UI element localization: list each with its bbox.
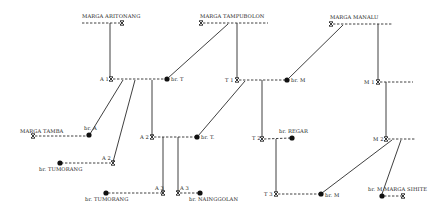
clan-tampubolon: MARGA TAMPUBOLON [168, 13, 268, 78]
male-marker-icon [199, 21, 203, 25]
node-label-a3-left: A 3 [154, 185, 164, 191]
node-label-br-m-2: br. M [325, 192, 340, 198]
female-marker-icon [103, 190, 108, 195]
node-label-br-regar: br. REGAR [279, 128, 309, 134]
node-a2: A 2 br. T. [139, 81, 245, 192]
female-marker-icon [197, 190, 202, 195]
node-label-br-tumorang-2: br. TUMORANG [85, 196, 128, 202]
male-marker-icon [329, 22, 333, 26]
node-label-br-nainggolan: br. NAINGGOLAN [189, 196, 238, 202]
a1-descendants [90, 80, 152, 162]
clan-label-manalu: MARGA MANALU [330, 14, 379, 20]
node-label-br-tumorang-1: br. TUMORANG [39, 166, 82, 172]
male-marker-icon [376, 80, 380, 84]
node-a1: A 1 br. T [99, 76, 184, 82]
clan-label-tampubolon: MARGA TAMPUBOLON [200, 13, 265, 19]
node-label-m2: M 2 [373, 136, 384, 142]
node-t2: T 2 br. REGAR [252, 128, 309, 192]
clan-aritonang: MARGA ARITONANG [82, 13, 140, 77]
clan-label-sihite: MARGA SIHITE [384, 186, 427, 192]
node-t3: T 3 br. M [264, 191, 340, 198]
node-label-br-t: br. T [171, 76, 184, 82]
descent-line [288, 25, 343, 79]
male-marker-icon [109, 77, 113, 81]
node-a3-right: A 3 br. NAINGGOLAN [176, 185, 238, 202]
node-label-a1: A 1 [99, 76, 109, 82]
clan-label-tamba: MARGA TAMBA [20, 128, 64, 134]
node-sihite: br. M MARGA SIHITE [368, 186, 427, 199]
node-label-br-t-2: br. T. [201, 134, 215, 140]
node-a3-left: A 3 br. TUMORANG [85, 185, 165, 202]
clan-label-aritonang: MARGA ARITONANG [82, 13, 140, 19]
node-label-br-m: br. M [291, 77, 306, 83]
female-marker-icon [86, 132, 91, 137]
node-a2-left: A 2 br. TUMORANG [39, 155, 115, 172]
descent-line [168, 24, 228, 78]
female-marker-icon [379, 193, 384, 198]
male-marker-icon [235, 78, 239, 82]
male-marker-icon [120, 21, 124, 25]
node-label-a3-right: A 3 [179, 185, 189, 191]
kinship-diagram: MARGA ARITONANG A 1 br. T MARGA TAMPUBOL… [0, 0, 445, 213]
node-label-a2: A 2 [139, 134, 149, 140]
node-t1: T 1 br. M [225, 77, 306, 83]
node-label-br-a: br. A [84, 125, 97, 131]
male-marker-icon [274, 192, 278, 196]
descent-line [113, 80, 135, 162]
female-marker-icon [289, 135, 294, 140]
node-label-m1: M 1 [364, 79, 375, 85]
male-marker-icon [384, 137, 388, 141]
male-marker-icon [31, 134, 35, 138]
marriage-line [264, 138, 291, 139]
node-label-t2: T 2 [252, 135, 261, 141]
descent-line [198, 81, 245, 136]
node-label-a2-left: A 2 [101, 155, 111, 161]
node-label-t3: T 3 [264, 191, 273, 197]
node-label-t1: T 1 [225, 77, 234, 83]
female-marker-icon [318, 191, 323, 196]
female-marker-icon [57, 160, 62, 165]
node-tamba: MARGA TAMBA br. A [20, 125, 97, 138]
node-label-br-m-3: br. M [368, 186, 383, 192]
clan-manalu: MARGA MANALU [288, 14, 392, 80]
node-m1: M 1 [364, 79, 413, 137]
